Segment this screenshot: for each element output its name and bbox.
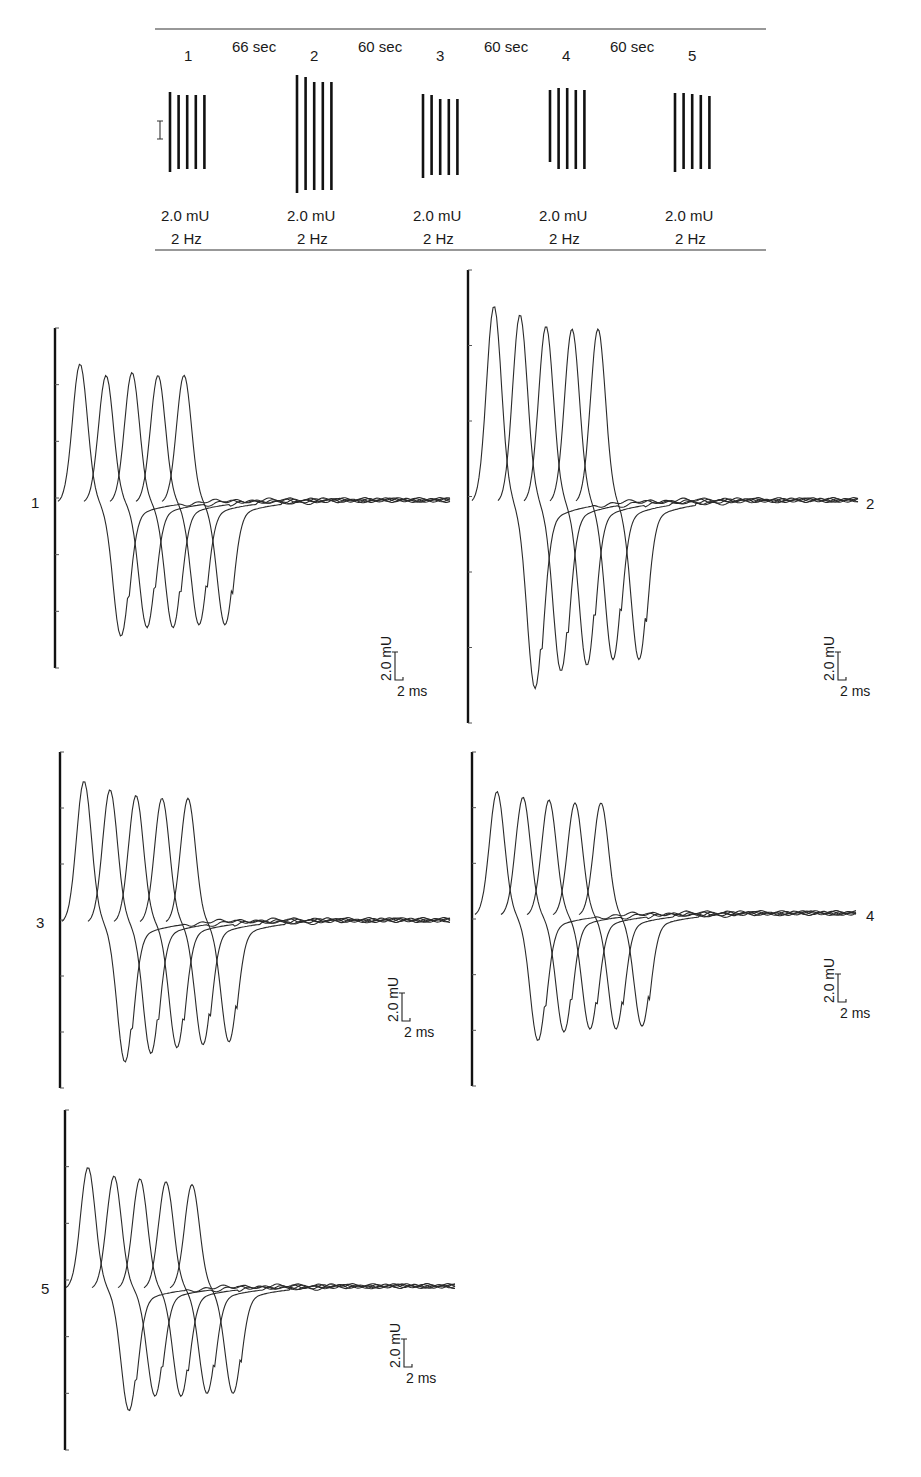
interval-label: 60 sec bbox=[358, 38, 403, 55]
cmap-trace bbox=[136, 376, 450, 625]
panel-4: 42.0 mU2 ms bbox=[472, 752, 874, 1086]
rate-label: 2 Hz bbox=[423, 230, 454, 247]
interval-label: 60 sec bbox=[484, 38, 529, 55]
amplitude-scale-label: 2.0 mU bbox=[821, 958, 837, 1003]
stim-bar-group bbox=[550, 88, 584, 169]
train-label: 3 bbox=[436, 47, 444, 64]
amplitude-scale-label: 2.0 mU bbox=[821, 636, 837, 681]
panel-1: 12.0 mU2 ms bbox=[31, 328, 450, 699]
time-scale-label: 2 ms bbox=[404, 1024, 434, 1040]
stim-bar-group bbox=[297, 75, 331, 193]
panel-label: 2 bbox=[866, 495, 874, 512]
amplitude-scale-label: 2.0 mU bbox=[385, 977, 401, 1022]
stim-bar-group bbox=[423, 94, 457, 178]
scale-bar: 2.0 mU2 ms bbox=[821, 958, 870, 1021]
cmap-trace bbox=[576, 329, 858, 659]
scale-bar: 2.0 mU2 ms bbox=[387, 1323, 436, 1386]
figure: 1234566 sec60 sec60 sec60 sec2.0 mU2 Hz2… bbox=[0, 0, 921, 1477]
panel-label: 1 bbox=[31, 494, 39, 511]
train-label: 4 bbox=[562, 47, 570, 64]
amplitude-scale-label: 2.0 mU bbox=[378, 636, 394, 681]
interval-label: 66 sec bbox=[232, 38, 277, 55]
rate-label: 2 Hz bbox=[549, 230, 580, 247]
intensity-label: 2.0 mU bbox=[413, 207, 461, 224]
train-label: 2 bbox=[310, 47, 318, 64]
scale-bar: 2.0 mU2 ms bbox=[821, 636, 870, 699]
panel-label: 4 bbox=[866, 907, 874, 924]
stim-bar-group bbox=[675, 93, 709, 172]
cmap-trace bbox=[524, 327, 858, 665]
rate-label: 2 Hz bbox=[675, 230, 706, 247]
intensity-label: 2.0 mU bbox=[287, 207, 335, 224]
time-scale-label: 2 ms bbox=[840, 1005, 870, 1021]
panel-3: 32.0 mU2 ms bbox=[36, 752, 450, 1088]
intensity-label: 2.0 mU bbox=[161, 207, 209, 224]
time-scale-label: 2 ms bbox=[840, 683, 870, 699]
time-scale-label: 2 ms bbox=[397, 683, 427, 699]
amplitude-scale-label: 2.0 mU bbox=[387, 1323, 403, 1368]
scale-bar: 2.0 mU2 ms bbox=[378, 636, 427, 699]
train-label: 5 bbox=[688, 47, 696, 64]
cmap-trace bbox=[66, 1168, 455, 1411]
panel-2: 22.0 mU2 ms bbox=[468, 270, 874, 723]
scale-bar: 2.0 mU2 ms bbox=[385, 977, 434, 1040]
train-label: 1 bbox=[184, 47, 192, 64]
panel-5: 52.0 mU2 ms bbox=[41, 1110, 455, 1450]
panel-label: 5 bbox=[41, 1280, 49, 1297]
rate-label: 2 Hz bbox=[297, 230, 328, 247]
stim-bar-group bbox=[170, 92, 204, 172]
time-scale-label: 2 ms bbox=[406, 1370, 436, 1386]
interval-label: 60 sec bbox=[610, 38, 655, 55]
summary-strip: 1234566 sec60 sec60 sec60 sec2.0 mU2 Hz2… bbox=[155, 29, 766, 250]
cmap-trace bbox=[140, 799, 450, 1045]
intensity-label: 2.0 mU bbox=[539, 207, 587, 224]
panel-label: 3 bbox=[36, 914, 44, 931]
waveform-panels: 12.0 mU2 ms22.0 mU2 ms32.0 mU2 ms42.0 mU… bbox=[31, 270, 874, 1450]
calibration-marker bbox=[157, 121, 163, 139]
intensity-label: 2.0 mU bbox=[665, 207, 713, 224]
cmap-trace bbox=[144, 1182, 455, 1393]
rate-label: 2 Hz bbox=[171, 230, 202, 247]
